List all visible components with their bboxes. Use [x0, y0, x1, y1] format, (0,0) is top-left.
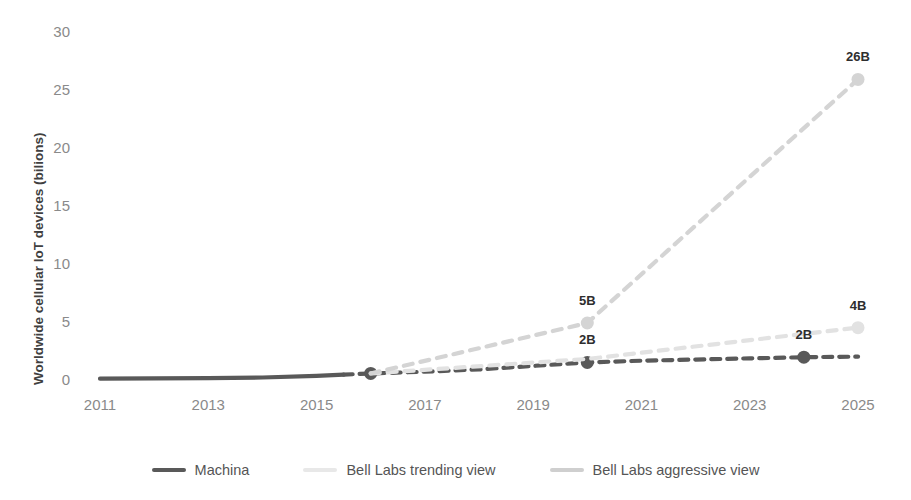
legend-swatch-icon	[303, 468, 337, 472]
legend-swatch-icon	[152, 468, 186, 472]
plot-area	[0, 0, 911, 500]
legend-item-bell-labs-aggressive-view[interactable]: Bell Labs aggressive view	[550, 462, 760, 478]
data-label-5B: 5B	[562, 293, 612, 308]
legend-item-label: Bell Labs aggressive view	[593, 462, 760, 478]
legend-item-bell-labs-trending-view[interactable]: Bell Labs trending view	[303, 462, 495, 478]
data-label-2B: 2B	[562, 332, 612, 347]
legend-item-label: Machina	[195, 462, 250, 478]
data-point-marker	[581, 317, 594, 330]
series-line-machina-solid	[100, 375, 344, 379]
data-point-marker	[852, 321, 865, 334]
legend-item-machina[interactable]: Machina	[152, 462, 250, 478]
data-label-26B: 26B	[833, 49, 883, 64]
data-point-marker	[797, 351, 810, 364]
legend-swatch-icon	[550, 468, 584, 472]
legend-item-label: Bell Labs trending view	[346, 462, 495, 478]
data-label-2B: 2B	[779, 327, 829, 342]
data-label-4B: 4B	[833, 298, 883, 313]
chart-legend: MachinaBell Labs trending viewBell Labs …	[0, 462, 911, 478]
data-point-marker	[852, 73, 865, 86]
line-chart: Worldwide cellular IoT devices (bilions)…	[0, 0, 911, 500]
